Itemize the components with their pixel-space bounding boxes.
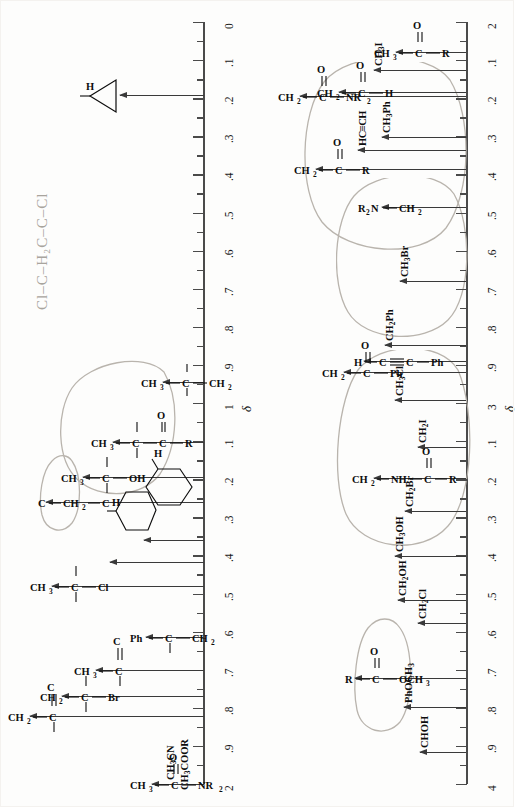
structure-ch3-co-nr2: CH3 C NR2 O	[152, 684, 204, 780]
label-ch3oh: CH3OH	[395, 516, 406, 552]
label-choh: CHOH	[420, 716, 431, 748]
axis-tick-minor	[460, 155, 466, 156]
structure-ch2-c-dbl-c: CH2 C C	[30, 624, 82, 712]
axis-tick-major	[193, 289, 204, 290]
axis-tick-label: .3	[223, 516, 235, 525]
axis-tick-label: .1	[223, 58, 235, 67]
svg-text:3: 3	[426, 679, 430, 688]
axis-tick-minor	[197, 651, 203, 652]
axis-tick-major	[456, 327, 467, 328]
svg-text:C: C	[49, 712, 57, 723]
svg-text:C: C	[372, 674, 380, 685]
svg-text:C: C	[165, 633, 173, 644]
axis-tick-minor	[460, 765, 466, 766]
axis-tick-label: .5	[486, 211, 498, 220]
svg-text:CH: CH	[294, 165, 310, 176]
svg-text:R: R	[362, 165, 370, 176]
svg-text:C: C	[363, 368, 371, 379]
arrow-choh	[420, 752, 466, 753]
axis-tick-label: .8	[223, 706, 235, 715]
structure-r2n-ch2: R2 N CH2	[382, 115, 416, 203]
svg-text:H: H	[86, 81, 94, 92]
axis-tick-minor	[197, 574, 203, 575]
axis-tick-label: .3	[223, 135, 235, 144]
svg-text:CH: CH	[352, 474, 368, 485]
axis-tick-minor	[460, 727, 466, 728]
svg-text:H: H	[112, 497, 120, 508]
structure-ch3-c-cl: CH3 C Cl	[52, 496, 98, 582]
svg-text:H: H	[154, 448, 162, 459]
axis-tick-minor	[460, 651, 466, 652]
axis-tick-minor	[197, 193, 203, 194]
axis-tick-minor	[197, 422, 203, 423]
axis-tick-minor	[197, 155, 203, 156]
svg-text:NR: NR	[198, 780, 214, 791]
svg-text:Br: Br	[108, 692, 120, 703]
label-ch3cn: CH3CN	[166, 745, 177, 780]
structure-cyclopentane: H	[110, 474, 162, 540]
axis-tick-major	[456, 22, 467, 23]
axis-tick-minor	[460, 308, 466, 309]
svg-text:CH: CH	[8, 712, 24, 723]
axis-tick-label: .9	[223, 744, 235, 753]
svg-text:CH: CH	[278, 92, 294, 103]
svg-text:C: C	[182, 378, 190, 389]
axis-tick-minor	[460, 384, 466, 385]
svg-text:3: 3	[49, 587, 53, 596]
axis-tick-major	[456, 517, 467, 518]
svg-text:O: O	[422, 446, 430, 457]
axis-tick-minor	[197, 270, 203, 271]
axis-tick-label: .2	[223, 478, 235, 487]
svg-text:C: C	[81, 692, 89, 703]
axis-tick-label: 2	[223, 785, 235, 791]
label-ch2cl: CH2Cl	[418, 589, 429, 619]
axis-tick-major	[456, 251, 467, 252]
svg-text:CH: CH	[322, 368, 338, 379]
structure-ch2-nh-co-r: CH2 NH C R O	[374, 354, 426, 474]
structure-ph-c-ch2: Ph C CH2	[146, 545, 190, 633]
handwritten-formula-note: Cl–C–H₂C–C–Cl	[34, 193, 51, 310]
axis-tick-major	[456, 403, 467, 404]
axis-tick-major	[456, 594, 467, 595]
axis-tick-minor	[460, 79, 466, 80]
svg-text:CH: CH	[209, 378, 225, 389]
svg-text:2: 2	[418, 208, 422, 217]
svg-text:C: C	[115, 666, 123, 677]
arrow-phoch3	[404, 707, 466, 708]
svg-text:C: C	[47, 682, 55, 693]
axis-tick-minor	[460, 460, 466, 461]
svg-text:O: O	[356, 60, 364, 71]
axis-tick-major	[456, 174, 467, 175]
axis-tick-major	[193, 403, 204, 404]
axis-tick-minor	[460, 613, 466, 614]
axis-tick-major	[193, 517, 204, 518]
svg-text:2: 2	[313, 170, 317, 179]
axis-tick-major	[456, 746, 467, 747]
delta-symbol: δ	[239, 406, 255, 412]
svg-text:C: C	[424, 474, 432, 485]
structure-ch2-co-r: CH2 C R O	[316, 73, 368, 165]
svg-text:C: C	[102, 473, 110, 484]
axis-tick-major	[456, 60, 467, 61]
axis-tick-major	[456, 365, 467, 366]
svg-text:3: 3	[393, 53, 397, 62]
svg-text:C: C	[71, 582, 79, 593]
svg-text:O: O	[333, 137, 341, 148]
axis-tick-minor	[460, 422, 466, 423]
svg-text:2: 2	[371, 479, 375, 488]
arrow-ch3br	[400, 281, 466, 282]
axis-tick-minor	[197, 79, 203, 80]
svg-text:O: O	[361, 340, 369, 351]
svg-text:R: R	[442, 48, 450, 59]
svg-text:CH: CH	[399, 203, 415, 214]
svg-text:O: O	[370, 646, 378, 657]
svg-text:2: 2	[27, 717, 31, 726]
arrow-ch2br	[405, 511, 466, 512]
svg-text:R: R	[358, 203, 366, 214]
axis-tick-label: .4	[486, 173, 498, 182]
label-ch3br: CH3Br	[400, 246, 411, 277]
axis-tick-major	[193, 594, 204, 595]
svg-text:CH: CH	[130, 780, 146, 791]
axis-tick-major	[456, 784, 467, 785]
axis-tick-label: .4	[223, 173, 235, 182]
